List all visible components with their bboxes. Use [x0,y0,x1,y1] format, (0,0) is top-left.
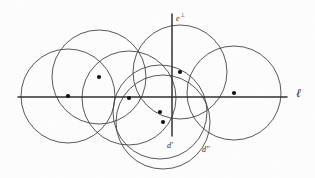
axis-label-e-perp: e⊥ [176,12,185,23]
axis-label-ell: ℓ [296,87,301,99]
paper-grain-overlay [0,0,315,178]
figure-container: e⊥ ℓ d' d'' [0,0,315,178]
arc-label-d-prime: d' [167,142,173,150]
arc-label-d-double-prime: d'' [202,146,209,154]
diagram-canvas [0,0,315,178]
